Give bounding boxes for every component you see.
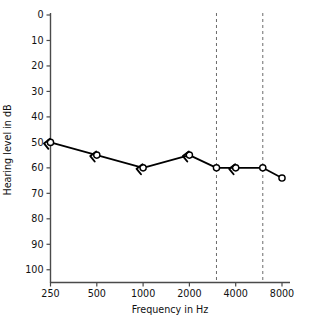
y-axis-tick-label: 70 [31,188,43,199]
y-axis-tick-label: 60 [31,162,43,173]
y-axis-tick-label: 30 [31,86,43,97]
y-axis-tick-label: 50 [31,137,43,148]
x-axis-tick-label: 8000 [270,288,294,299]
audiogram-chart: 0102030405060708090100 25050010002000400… [0,0,311,323]
y-axis-tick-label: 20 [31,60,43,71]
x-axis-tick-label: 1000 [131,288,155,299]
data-point-marker [260,165,266,171]
x-axis-tick-label: 500 [88,288,106,299]
data-point-marker [213,165,219,171]
x-axis-tick-label: 2000 [177,288,201,299]
y-axis-tick-label: 80 [31,213,43,224]
y-axis-tick-label: 90 [31,239,43,250]
y-axis-tick-label: 10 [31,35,43,46]
y-axis-title: Hearing level in dB [2,104,13,195]
x-axis-title: Frequency in Hz [132,304,209,315]
audiogram-plot: 0102030405060708090100 25050010002000400… [0,0,311,323]
y-axis-tick-label: 0 [37,9,43,20]
chart-background [0,0,311,323]
x-axis-tick-label: 4000 [223,288,247,299]
data-point-marker [279,175,285,181]
x-axis-tick-label: 250 [41,288,59,299]
y-axis-tick-label: 40 [31,111,43,122]
y-axis-tick-label: 100 [25,264,43,275]
